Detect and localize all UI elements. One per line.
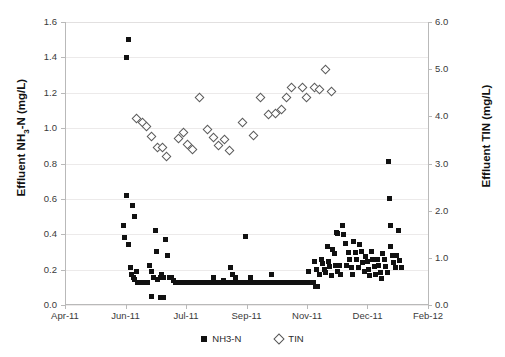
legend-item-nh3n: NH3-N [201, 333, 241, 344]
filled-square-icon [201, 336, 207, 342]
y-axis-left-tick [61, 57, 65, 58]
data-point-nh3-n [378, 270, 383, 275]
y-axis-left-tick [61, 164, 65, 165]
y-axis-right-tick-label: 5.0 [435, 63, 448, 74]
data-point-nh3-n [126, 242, 131, 247]
y-axis-right-tick [428, 69, 432, 70]
x-axis-tick [126, 305, 127, 309]
data-point-nh3-n [312, 259, 317, 264]
data-point-nh3-n [356, 265, 361, 270]
y-axis-left-tick [61, 93, 65, 94]
data-point-nh3-n [337, 263, 342, 268]
data-point-nh3-n [126, 37, 131, 42]
data-point-nh3-n [243, 234, 248, 239]
y-axis-left-tick-label: 1.4 [44, 51, 57, 62]
y-axis-left-tick-label: 0.6 [44, 193, 57, 204]
y-axis-right-tick [428, 211, 432, 212]
data-point-nh3-n [326, 259, 331, 264]
data-point-nh3-n [332, 251, 337, 256]
y-axis-left-tick-label: 0.8 [44, 158, 57, 169]
data-point-nh3-n [349, 265, 354, 270]
y-axis-right-tick [428, 164, 432, 165]
y-axis-left-tick-label: 0.4 [44, 228, 57, 239]
data-point-nh3-n [233, 275, 238, 280]
data-point-nh3-n [147, 263, 152, 268]
chart-legend: NH3-N TIN [0, 333, 505, 344]
x-axis-tick-label: Nov-11 [292, 310, 322, 321]
data-point-nh3-n [393, 265, 398, 270]
data-point-nh3-n [228, 265, 233, 270]
data-point-nh3-n [329, 273, 334, 278]
y-axis-right-title: Effluent TIN (mg/L) [480, 36, 492, 236]
data-point-nh3-n [363, 254, 368, 259]
y-axis-right-tick-label: 2.0 [435, 205, 448, 216]
y-axis-left-tick [61, 234, 65, 235]
x-axis-tick [428, 305, 429, 309]
data-point-nh3-n [122, 235, 127, 240]
data-point-nh3-n [306, 269, 311, 274]
data-point-nh3-n [365, 259, 370, 264]
data-point-nh3-n [132, 214, 137, 219]
y-axis-left-tick [61, 22, 65, 23]
data-point-nh3-n [153, 228, 158, 233]
x-axis-tick [367, 305, 368, 309]
data-point-nh3-n [248, 275, 253, 280]
legend-label-nh3n: NH3-N [212, 333, 241, 344]
data-point-nh3-n [386, 159, 391, 164]
data-point-nh3-n [357, 242, 362, 247]
data-point-nh3-n [124, 193, 129, 198]
y-axis-left-tick-label: 0.2 [44, 264, 57, 275]
x-axis-tick-label: Apr-11 [51, 310, 79, 321]
y-axis-left-tick-label: 1.0 [44, 122, 57, 133]
data-point-nh3-n [369, 249, 374, 254]
data-point-nh3-n [394, 253, 399, 258]
data-point-nh3-n [379, 276, 384, 281]
data-point-nh3-n [130, 203, 135, 208]
x-axis-tick-label: Jul-11 [173, 310, 198, 321]
data-point-nh3-n [128, 265, 133, 270]
y-axis-left-tick [61, 270, 65, 271]
data-point-nh3-n [367, 273, 372, 278]
data-point-nh3-n [388, 223, 393, 228]
data-point-nh3-n [323, 270, 328, 275]
data-point-nh3-n [346, 250, 351, 255]
data-point-nh3-n [211, 275, 216, 280]
data-point-nh3-n [385, 270, 390, 275]
data-point-nh3-n [149, 294, 154, 299]
data-point-nh3-n [154, 249, 159, 254]
data-point-nh3-n [376, 263, 381, 268]
data-point-nh3-n [347, 257, 352, 262]
data-point-nh3-n [315, 284, 320, 289]
x-axis-tick [307, 305, 308, 309]
plot-area [65, 22, 428, 305]
data-point-nh3-n [165, 253, 170, 258]
data-point-nh3-n [351, 239, 356, 244]
y-axis-right-tick-label: 0.0 [435, 299, 448, 310]
y-axis-left-tick-label: 1.2 [44, 87, 57, 98]
data-point-nh3-n [341, 232, 346, 237]
data-point-nh3-n [396, 228, 401, 233]
data-point-nh3-n [382, 257, 387, 262]
y-axis-right-tick-label: 6.0 [435, 16, 448, 27]
y-axis-right-tick-label: 1.0 [435, 252, 448, 263]
data-point-nh3-n [375, 257, 380, 262]
data-point-nh3-n [327, 264, 332, 269]
x-axis-tick-label: Dec-11 [353, 310, 383, 321]
data-point-nh3-n [320, 261, 325, 266]
y-axis-left-tick [61, 128, 65, 129]
open-diamond-icon [274, 333, 285, 344]
chart-root: 1.61.41.21.00.80.60.40.20.0 6.05.04.03.0… [0, 0, 505, 357]
y-axis-right-tick-label: 4.0 [435, 110, 448, 121]
y-axis-right-tick-label: 3.0 [435, 158, 448, 169]
data-point-nh3-n [388, 244, 393, 249]
data-point-nh3-n [163, 237, 168, 242]
data-point-nh3-n [399, 265, 404, 270]
data-point-nh3-n [353, 250, 358, 255]
x-axis-tick-label: Feb-12 [413, 310, 443, 321]
x-axis-tick [186, 305, 187, 309]
data-point-nh3-n [391, 260, 396, 265]
data-point-nh3-n [161, 275, 166, 280]
data-point-nh3-n [387, 196, 392, 201]
x-axis-tick [65, 305, 66, 309]
data-point-nh3-n [350, 272, 355, 277]
